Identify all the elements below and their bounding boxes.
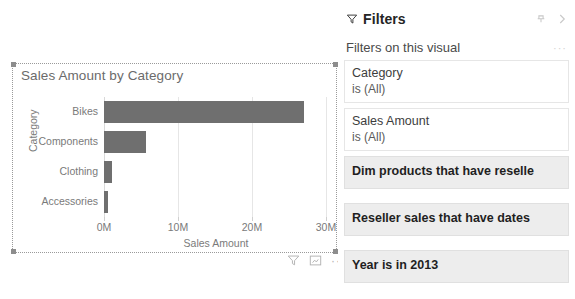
filter-condition: is (All) <box>352 81 561 97</box>
x-axis-tick-label: 30M <box>316 221 336 233</box>
focus-mode-icon[interactable] <box>309 254 322 267</box>
bar-row[interactable]: Clothing <box>104 157 328 187</box>
section-more-options-icon[interactable]: ··· <box>553 45 567 51</box>
bar-row[interactable]: Accessories <box>104 187 328 217</box>
filter-field-name: Dim products that have reselle <box>352 164 561 179</box>
chart-visual-container[interactable]: Sales Amount by Category Category 0M10M2… <box>12 63 337 253</box>
x-axis-title: Sales Amount <box>104 237 328 249</box>
pin-icon[interactable] <box>534 12 548 26</box>
x-axis-tick-label: 20M <box>242 221 262 233</box>
funnel-icon <box>346 13 358 25</box>
x-axis-tick-label: 0M <box>97 221 112 233</box>
plot-area: 0M10M20M30MBikesComponentsClothingAccess… <box>104 97 328 248</box>
filter-card[interactable]: Dim products that have reselle <box>344 156 569 189</box>
filter-icon[interactable] <box>287 254 300 267</box>
filters-section-header: Filters on this visual ··· <box>346 40 567 55</box>
selection-handle-top-left[interactable] <box>11 62 16 67</box>
chart-title: Sales Amount by Category <box>21 68 183 83</box>
bar[interactable] <box>104 101 304 123</box>
bar-row[interactable]: Bikes <box>104 97 328 127</box>
filters-pane-title: Filters <box>363 11 406 27</box>
category-label: Bikes <box>72 105 98 117</box>
category-label: Accessories <box>41 195 98 207</box>
filter-card[interactable]: Categoryis (All) <box>344 60 569 103</box>
filter-field-name: Sales Amount <box>352 113 561 129</box>
filter-field-name: Year is in 2013 <box>352 258 561 273</box>
chevron-right-icon[interactable] <box>555 12 569 26</box>
filter-card[interactable]: Sales Amountis (All) <box>344 108 569 151</box>
bar-row[interactable]: Components <box>104 127 328 157</box>
filter-field-name: Reseller sales that have dates <box>352 211 561 226</box>
category-label: Clothing <box>59 165 98 177</box>
filter-card[interactable]: Year is in 2013 <box>344 250 569 283</box>
selection-handle-bottom-left[interactable] <box>11 249 16 254</box>
x-axis-tick-label: 10M <box>168 221 188 233</box>
bar[interactable] <box>104 161 112 183</box>
filter-condition: is (All) <box>352 129 561 145</box>
y-axis-title: Category <box>27 109 39 152</box>
filters-section-label: Filters on this visual <box>346 40 460 55</box>
filters-pane: Filters Filters on this visual ··· Categ… <box>338 0 575 299</box>
category-label: Components <box>38 135 98 147</box>
filter-card[interactable]: Reseller sales that have dates <box>344 203 569 236</box>
bar[interactable] <box>104 191 108 213</box>
bar[interactable] <box>104 131 146 153</box>
filters-header: Filters <box>346 11 569 27</box>
filter-field-name: Category <box>352 65 561 81</box>
